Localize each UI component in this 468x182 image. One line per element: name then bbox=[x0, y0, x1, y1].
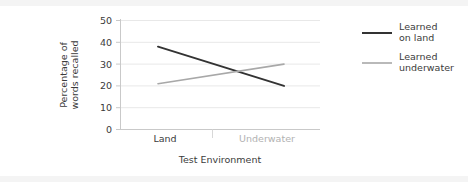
legend-label-learned-on-land-line1: Learned bbox=[399, 21, 437, 32]
legend-label-learned-underwater-line2: underwater bbox=[399, 62, 454, 73]
x-tick-label-underwater: Underwater bbox=[239, 133, 295, 144]
y-tick-label-10: 10 bbox=[100, 102, 112, 113]
legend-label-learned-on-land-line2: on land bbox=[399, 32, 434, 43]
y-axis-ticks bbox=[116, 21, 120, 130]
y-axis-title-line2: words recalled bbox=[69, 40, 80, 109]
y-tick-label-40: 40 bbox=[100, 37, 112, 48]
x-tick-label-land: Land bbox=[153, 133, 176, 144]
y-tick-label-50: 50 bbox=[100, 15, 112, 26]
legend: Learned on land Learned underwater bbox=[362, 21, 454, 73]
y-axis-title-line1: Percentage of bbox=[58, 42, 69, 108]
line-chart: 50 40 30 20 10 0 Land Underwater Test En… bbox=[0, 0, 468, 182]
gridlines bbox=[120, 21, 320, 108]
legend-label-learned-underwater-line1: Learned bbox=[399, 51, 437, 62]
y-tick-label-0: 0 bbox=[106, 124, 112, 135]
y-tick-label-30: 30 bbox=[100, 59, 112, 70]
x-axis-title: Test Environment bbox=[178, 154, 262, 165]
y-axis-title: Percentage of words recalled bbox=[58, 40, 80, 109]
y-tick-label-20: 20 bbox=[100, 80, 112, 91]
chart-figure: 50 40 30 20 10 0 Land Underwater Test En… bbox=[0, 0, 468, 182]
